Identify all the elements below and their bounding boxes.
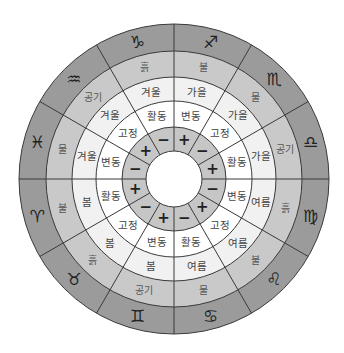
modality-label: 고정	[118, 219, 138, 231]
modality-label: 변동	[101, 156, 121, 168]
aries-icon: ♈	[30, 206, 45, 226]
polarity-label: −	[178, 209, 191, 227]
modality-label: 변동	[147, 236, 167, 248]
season-label: 가을	[187, 86, 207, 98]
polarity-label: +	[157, 209, 170, 227]
polarity-label: +	[178, 131, 191, 149]
element-label: 불	[199, 62, 208, 73]
polarity-label: +	[129, 180, 142, 198]
element-label: 물	[58, 144, 67, 155]
season-label: 봄	[82, 196, 92, 208]
polarity-label: −	[157, 131, 170, 149]
season-label: 봄	[146, 260, 156, 272]
season-label: 여름	[187, 260, 207, 272]
gemini-icon: ♊	[130, 306, 145, 326]
element-label: 공기	[276, 144, 294, 155]
element-label: 흙	[281, 202, 290, 214]
season-label: 가을	[251, 150, 271, 162]
cancer-icon: ♋	[203, 306, 218, 326]
modality-label: 활동	[147, 110, 167, 122]
season-label: 겨울	[77, 150, 97, 162]
element-label: 불	[251, 255, 260, 266]
leo-icon: ♌	[266, 269, 281, 289]
season-label: 겨울	[141, 86, 161, 98]
center-hole	[146, 151, 202, 207]
element-label: 공기	[84, 92, 102, 103]
polarity-label: +	[196, 198, 209, 216]
zodiac-wheel: ♐불가을변동+♏물가을고정−♎공기가을활동+♍흙여름변동−♌불여름고정+♋물여름…	[0, 0, 344, 353]
scorpio-icon: ♏	[266, 69, 281, 89]
element-label: 공기	[135, 285, 153, 296]
season-label: 봄	[105, 237, 115, 249]
season-label: 가을	[228, 109, 248, 121]
polarity-label: −	[129, 160, 142, 178]
season-label: 여름	[228, 237, 248, 249]
modality-label: 활동	[101, 190, 121, 202]
modality-label: 활동	[227, 156, 247, 168]
polarity-label: +	[206, 160, 219, 178]
modality-label: 고정	[210, 127, 230, 139]
taurus-icon: ♉	[66, 269, 81, 289]
element-label: 불	[58, 203, 67, 214]
capricorn-icon: ♑	[130, 32, 145, 52]
element-label: 물	[199, 285, 208, 296]
modality-label: 활동	[181, 236, 201, 248]
modality-label: 고정	[210, 219, 230, 231]
element-label: 흙	[140, 61, 149, 73]
libra-icon: ♎	[303, 132, 318, 152]
modality-label: 변동	[227, 190, 247, 202]
pisces-icon: ♓	[30, 132, 45, 152]
modality-label: 고정	[118, 127, 138, 139]
polarity-label: −	[139, 198, 152, 216]
virgo-icon: ♍	[303, 206, 318, 226]
polarity-label: −	[206, 180, 219, 198]
season-label: 겨울	[100, 109, 120, 121]
aquarius-icon: ♒	[66, 69, 81, 89]
element-label: 물	[251, 92, 260, 103]
modality-label: 변동	[181, 110, 201, 122]
season-label: 여름	[251, 196, 271, 208]
polarity-label: +	[139, 142, 152, 160]
element-label: 흙	[88, 254, 97, 266]
sagittarius-icon: ♐	[203, 32, 218, 52]
polarity-label: −	[196, 142, 209, 160]
